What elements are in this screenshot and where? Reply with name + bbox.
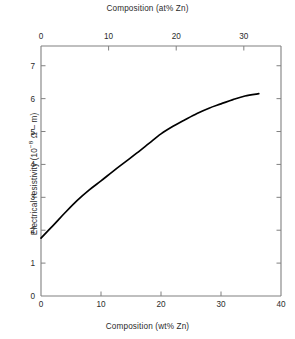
y-axis-tick-label: 7 [15, 61, 35, 70]
y-axis-tick-label: 3 [15, 193, 35, 202]
plot-canvas [0, 0, 295, 339]
y-axis-tick-label: 1 [15, 259, 35, 268]
top-axis-tick-label: 20 [172, 32, 181, 41]
axis-ticks [41, 46, 281, 296]
x-axis-tick-label: 20 [156, 300, 165, 309]
y-axis-tick-label: 4 [15, 160, 35, 169]
resistivity-curve [41, 94, 259, 238]
y-axis-tick-label: 2 [15, 226, 35, 235]
top-axis-tick-label: 30 [239, 32, 248, 41]
y-axis-tick-label: 6 [15, 94, 35, 103]
y-axis-tick-label: 5 [15, 127, 35, 136]
x-axis-tick-label: 10 [96, 300, 105, 309]
x-axis-tick-label: 40 [276, 300, 285, 309]
x-axis-tick-label: 30 [216, 300, 225, 309]
chart-figure: Composition (at% Zn) Electrical resistiv… [0, 0, 295, 339]
top-axis-tick-label: 0 [39, 32, 44, 41]
y-axis-tick-label: 0 [15, 292, 35, 301]
x-axis-tick-label: 0 [39, 300, 44, 309]
top-axis-tick-label: 10 [104, 32, 113, 41]
plot-frame [41, 46, 281, 296]
